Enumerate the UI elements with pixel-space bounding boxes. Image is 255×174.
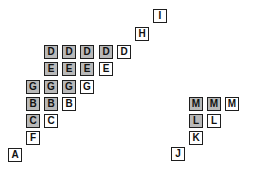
letter-box-e: E — [80, 62, 94, 76]
letter-box-d: D — [62, 45, 76, 59]
letter-box-h: H — [135, 27, 149, 41]
letter-box-c: C — [44, 114, 58, 128]
letter-box-g: G — [80, 80, 94, 94]
letter-box-m: M — [207, 97, 221, 111]
letter-box-m: M — [189, 97, 203, 111]
letter-box-e: E — [44, 62, 58, 76]
letter-box-e: E — [62, 62, 76, 76]
letter-box-m: M — [225, 97, 239, 111]
letter-box-b: B — [26, 97, 40, 111]
letter-box-e: E — [99, 62, 113, 76]
letter-box-b: B — [62, 97, 76, 111]
letter-box-b: B — [44, 97, 58, 111]
letter-box-l: L — [207, 114, 221, 128]
letter-box-f: F — [26, 131, 40, 145]
letter-box-d: D — [117, 45, 131, 59]
letter-box-d: D — [44, 45, 58, 59]
letter-box-i: I — [153, 9, 167, 23]
letter-box-c: C — [26, 114, 40, 128]
letter-box-d: D — [99, 45, 113, 59]
letter-box-j: J — [171, 147, 185, 161]
letter-box-l: L — [189, 114, 203, 128]
letter-box-d: D — [80, 45, 94, 59]
letter-box-a: A — [8, 148, 22, 162]
letter-box-g: G — [26, 80, 40, 94]
letter-box-g: G — [62, 80, 76, 94]
letter-box-k: K — [189, 131, 203, 145]
letter-box-g: G — [44, 80, 58, 94]
